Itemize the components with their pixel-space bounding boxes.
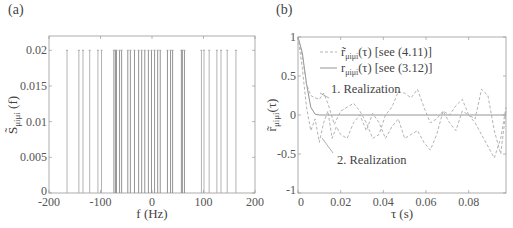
y-tick-label: 1 [290,30,296,44]
x-axis-label: τ (s) [391,206,413,221]
x-tick-label: -100 [90,195,112,209]
x-tick-label: 0.02 [330,195,351,209]
y-tick-label: -0.5 [277,147,296,161]
x-axis-label: f (Hz) [136,206,167,221]
y-tick-label: 0.01 [26,115,47,129]
y-tick-label: -1 [286,183,296,197]
y-tick-label: 0.005 [20,150,47,164]
y-tick-label: 0.02 [26,43,47,57]
plot-frame [49,36,255,193]
legend-entry-1: r̃μiμi(τ) [see (4.11)] [341,45,432,61]
annotation-realization-2: 2. Realization [337,153,407,167]
y-tick-label: 0 [290,108,296,122]
y-tick-label: 0.5 [281,69,296,83]
x-tick-label: 100 [195,195,213,209]
x-tick-label: 0.06 [416,195,437,209]
legend-entry-2: rμiμi(τ) [see (3.12)] [341,61,432,77]
x-tick-label: 0.08 [458,195,479,209]
y-axis-label: r̃μiμi(τ) [264,99,281,132]
x-tick-label: 0 [298,195,304,209]
y-tick-label: 0.015 [20,79,47,93]
annotation-realization-1: 1. Realization [331,82,401,96]
panel-a-chart: -200-100010020000.0050.010.0150.02f (Hz)… [5,36,264,221]
figure-canvas: -200-100010020000.0050.010.0150.02f (Hz)… [0,0,513,228]
panel-b-chart: 00.020.040.060.08-1-0.500.51r̃μiμi(τ) [s… [264,30,506,221]
x-tick-label: 200 [246,195,264,209]
y-tick-label: 0 [41,184,47,198]
y-axis-label: S̃μiμi (f) [5,96,22,134]
